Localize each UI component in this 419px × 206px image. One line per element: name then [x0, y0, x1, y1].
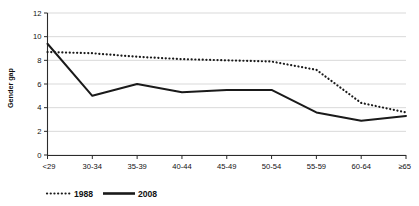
- y-tick-label-4: 4: [37, 103, 41, 112]
- x-tick-label-3: 40-44: [172, 162, 191, 171]
- x-tick-label-1: 30-34: [83, 162, 102, 171]
- y-tick-label-10: 10: [33, 32, 41, 41]
- y-tick-label-12: 12: [33, 9, 41, 18]
- y-tick-label-0: 0: [37, 151, 41, 160]
- x-tick-label-2: 35-39: [127, 162, 146, 171]
- x-tick-label-7: 60-64: [351, 162, 370, 171]
- y-axis-title: Gender gap: [6, 67, 15, 108]
- x-tick-label-4: 45-49: [217, 162, 236, 171]
- chart-background: [0, 0, 419, 206]
- y-tick-label-8: 8: [37, 56, 41, 65]
- x-tick-label-5: 50-54: [262, 162, 281, 171]
- y-tick-label-6: 6: [37, 80, 41, 89]
- y-tick-label-2: 2: [37, 127, 41, 136]
- chart-figure: 024681012 <2930-3435-3940-4445-4950-5455…: [0, 0, 419, 206]
- x-tick-label-6: 55-59: [307, 162, 326, 171]
- gender-gap-line-chart: 024681012 <2930-3435-3940-4445-4950-5455…: [0, 0, 419, 206]
- x-tick-label-8: ≥65: [398, 162, 411, 171]
- x-tick-labels-group: <2930-3435-3940-4445-4950-5455-5960-64≥6…: [43, 162, 412, 171]
- legend-label-1988: 1988: [74, 189, 93, 199]
- x-tick-label-0: <29: [43, 162, 56, 171]
- legend-label-2008: 2008: [138, 189, 157, 199]
